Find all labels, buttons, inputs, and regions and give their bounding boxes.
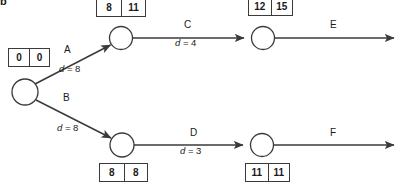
network-diagram-canvas: b 0 0 8 11 8 8 <box>0 0 398 185</box>
edge-e-label: E <box>330 19 337 30</box>
node-top-left-time-box: 8 11 <box>96 0 146 17</box>
edge-f-label: F <box>330 127 336 138</box>
network-graph-svg <box>0 0 398 185</box>
node-bottom-left-circle <box>110 133 134 157</box>
node-start-late-time: 0 <box>29 49 49 66</box>
node-bottom-left-time-box: 8 8 <box>99 163 148 182</box>
node-bottom-left-early-time: 8 <box>100 164 124 181</box>
node-bottom-right-circle <box>251 134 274 157</box>
node-top-right-circle <box>252 27 275 50</box>
node-top-right-early-time: 12 <box>249 0 271 15</box>
node-bottom-right-time-box: 11 11 <box>245 163 290 182</box>
node-top-left-early-time: 8 <box>97 0 121 16</box>
edge-c-duration: d = 4 <box>175 37 196 48</box>
edge-a-label: A <box>64 44 71 55</box>
edge-c-label: C <box>184 19 191 30</box>
node-top-right-time-box: 12 15 <box>248 0 293 16</box>
node-bottom-right-early-time: 11 <box>246 164 268 181</box>
node-start-time-box: 0 0 <box>8 48 50 67</box>
node-start-circle <box>12 79 38 105</box>
edge-d-duration: d = 3 <box>180 145 201 156</box>
node-start-early-time: 0 <box>9 49 29 66</box>
edge-b-duration: d = 8 <box>57 122 78 133</box>
node-bottom-left-late-time: 8 <box>124 164 148 181</box>
edge-a-duration: d = 8 <box>59 63 80 74</box>
edge-d-label: D <box>190 127 197 138</box>
node-top-right-late-time: 15 <box>271 0 293 15</box>
node-bottom-right-late-time: 11 <box>268 164 290 181</box>
node-top-left-late-time: 11 <box>121 0 145 16</box>
node-top-left-circle <box>110 27 133 50</box>
edge-b-label: B <box>63 92 70 103</box>
